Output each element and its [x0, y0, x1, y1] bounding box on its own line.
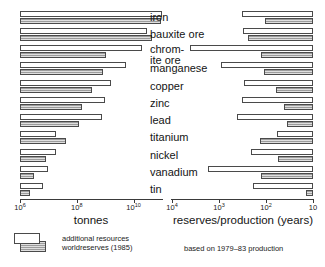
axis-tick-label: 104 [166, 203, 177, 212]
bar-world-reserves [261, 173, 313, 179]
bar-world-reserves [20, 18, 161, 24]
bar-world-reserves [20, 35, 152, 41]
category-label-iron: iron [150, 12, 168, 24]
bar-additional-resources [20, 149, 56, 155]
bar-additional-resources [20, 28, 147, 34]
bar-world-reserves [264, 69, 313, 75]
legend-label-additional-resources: additional resources [62, 234, 129, 243]
reserves-production-axis-line [171, 199, 314, 200]
category-label-lead: lead [150, 115, 171, 127]
bar-additional-resources [251, 149, 313, 155]
tonnes-axis-title: tonnes [74, 214, 109, 227]
bar-group [20, 26, 162, 43]
bar-additional-resources [20, 11, 162, 17]
reserves-production-axis-title: reserves/production (years) [173, 214, 313, 227]
category-label-tin: tin [150, 184, 162, 196]
bar-additional-resources [20, 131, 56, 137]
bar-group [172, 9, 313, 26]
bar-world-reserves [260, 138, 313, 144]
axis-tick-label: 103 [213, 203, 224, 212]
bar-world-reserves [20, 156, 46, 162]
bar-world-reserves [20, 87, 92, 93]
bar-world-reserves [287, 121, 313, 127]
footnote: based on 1979–83 production [184, 244, 283, 253]
bar-additional-resources [20, 97, 105, 103]
bar-additional-resources [20, 80, 111, 86]
bar-additional-resources [20, 45, 142, 51]
bar-group [20, 113, 162, 130]
bar-additional-resources [221, 62, 313, 68]
axis-tick-label: 108 [71, 203, 82, 212]
bar-group [20, 9, 162, 26]
bar-additional-resources [277, 131, 313, 137]
bar-additional-resources [237, 114, 313, 120]
bar-additional-resources [190, 45, 313, 51]
bar-group [172, 78, 313, 95]
bar-world-reserves [20, 52, 106, 58]
bar-group [172, 182, 313, 199]
bar-group [20, 130, 162, 147]
bar-group [20, 44, 162, 61]
bar-group [172, 164, 313, 181]
bar-world-reserves [306, 190, 313, 196]
bar-world-reserves [261, 52, 313, 58]
legend-swatch-additional-resources [14, 233, 40, 244]
bar-group [172, 61, 313, 78]
bar-group [20, 147, 162, 164]
bar-additional-resources [243, 28, 313, 34]
bar-world-reserves [284, 104, 313, 110]
bar-world-reserves [20, 190, 30, 196]
bar-world-reserves [278, 156, 313, 162]
bar-additional-resources [242, 11, 313, 17]
bar-world-reserves [248, 35, 313, 41]
bar-group [172, 113, 313, 130]
axis-tick-label: 106 [14, 203, 25, 212]
tonnes-axis-line [20, 199, 163, 200]
bar-group [20, 61, 162, 78]
panel-reserves-production [172, 9, 313, 199]
bar-world-reserves [20, 138, 66, 144]
bar-group [20, 182, 162, 199]
chart-root: ironbauxite orechrom-ite oremanganesecop… [0, 0, 325, 267]
bar-world-reserves [276, 87, 313, 93]
axis-tick-label: 10 [309, 203, 317, 212]
bar-additional-resources [242, 97, 313, 103]
bar-group [172, 147, 313, 164]
bar-world-reserves [20, 69, 103, 75]
bar-world-reserves [265, 18, 313, 24]
bar-group [20, 164, 162, 181]
bar-additional-resources [208, 166, 313, 172]
bar-additional-resources [20, 62, 126, 68]
bar-group [20, 95, 162, 112]
legend-label-world-reserves: worldreserves (1985) [62, 243, 132, 252]
bar-world-reserves [20, 104, 82, 110]
axis-tick-label: 102 [260, 203, 271, 212]
bar-world-reserves [20, 173, 34, 179]
bar-additional-resources [244, 80, 313, 86]
bar-group [172, 95, 313, 112]
bar-group [172, 130, 313, 147]
bar-group [172, 26, 313, 43]
bar-group [20, 78, 162, 95]
panel-tonnes [20, 9, 162, 199]
bar-group [172, 44, 313, 61]
bar-additional-resources [20, 114, 102, 120]
axis-tick-label: 1010 [126, 203, 140, 212]
category-label-zinc: zinc [150, 98, 170, 110]
bar-world-reserves [20, 121, 79, 127]
bar-additional-resources [20, 183, 43, 189]
legend: additional resources worldreserves (1985… [14, 233, 164, 263]
bar-additional-resources [253, 183, 313, 189]
bar-additional-resources [20, 166, 48, 172]
